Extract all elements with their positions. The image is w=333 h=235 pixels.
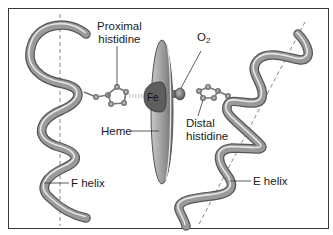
e-helix-label: E helix bbox=[253, 175, 288, 188]
distal-label-line2: histidine bbox=[186, 130, 228, 143]
proximal-label-line1: Proximal bbox=[97, 20, 142, 33]
proximal-label-line2: histidine bbox=[97, 33, 142, 46]
proximal-histidine-molecule bbox=[84, 85, 128, 106]
o2-label-subscript: 2 bbox=[206, 36, 210, 45]
o2-molecule bbox=[172, 88, 185, 100]
o2-label: O2 bbox=[197, 31, 210, 47]
f-helix-label: F helix bbox=[71, 177, 105, 190]
proximal-histidine-label: Proximal histidine bbox=[97, 20, 142, 46]
distal-label-line1: Distal bbox=[186, 117, 228, 130]
fe-label: Fe bbox=[147, 91, 159, 104]
hemoglobin-oxygen-binding-diagram bbox=[0, 0, 333, 235]
distal-histidine-molecule bbox=[197, 85, 230, 100]
o2-label-base: O bbox=[197, 31, 206, 43]
distal-histidine-label: Distal histidine bbox=[186, 117, 228, 143]
heme-label: Heme bbox=[101, 125, 132, 138]
